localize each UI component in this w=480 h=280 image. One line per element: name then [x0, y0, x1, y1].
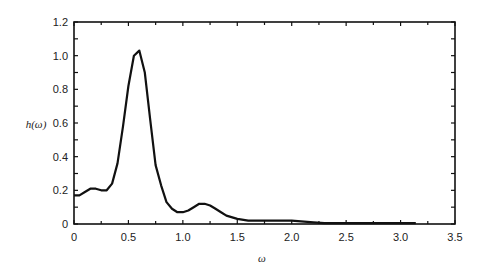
axis-ticks: [74, 22, 455, 224]
x-tick-label: 1.5: [230, 231, 245, 243]
plot-frame: [74, 22, 455, 224]
x-tick-label: 2.5: [338, 231, 353, 243]
x-tick-label: 2.0: [284, 231, 299, 243]
x-tick-label: 3.0: [393, 231, 408, 243]
y-tick-label: 0.4: [53, 151, 68, 163]
x-tick-label: 3.5: [447, 231, 462, 243]
chart: 00.51.01.52.02.53.03.500.20.40.60.81.01.…: [0, 0, 480, 280]
y-tick-label: 0: [62, 218, 68, 230]
x-tick-label: 0.5: [121, 231, 136, 243]
x-tick-label: 0: [71, 231, 77, 243]
y-tick-label: 0.6: [53, 117, 68, 129]
tick-labels: 00.51.01.52.02.53.03.500.20.40.60.81.01.…: [53, 16, 463, 243]
y-tick-label: 1.2: [53, 16, 68, 28]
y-tick-label: 0.8: [53, 83, 68, 95]
y-tick-label: 1.0: [53, 50, 68, 62]
x-axis-label: ω: [258, 252, 266, 264]
x-tick-label: 1.0: [175, 231, 190, 243]
y-axis-label: h(ω): [26, 118, 47, 131]
h-omega-curve: [74, 51, 416, 224]
y-tick-label: 0.2: [53, 184, 68, 196]
